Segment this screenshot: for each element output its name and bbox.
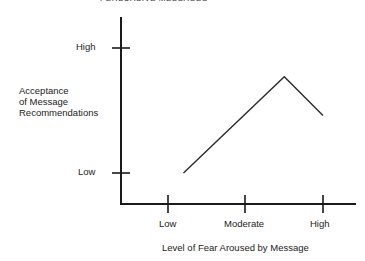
y-tick-label-low: Low (78, 166, 95, 177)
y-axis-label-line: Acceptance (19, 85, 98, 96)
y-tick-label-high: High (76, 41, 96, 52)
y-axis-label-line: Recommendations (19, 107, 98, 118)
x-tick-label-high: High (310, 218, 330, 229)
x-tick-label-low: Low (159, 218, 176, 229)
x-tick-label-moderate: Moderate (224, 218, 264, 229)
data-line (184, 77, 324, 173)
y-axis-label: Acceptance of Message Recommendations (19, 85, 98, 118)
x-axis-label: Level of Fear Aroused by Message (162, 242, 309, 253)
y-axis-label-line: of Message (19, 96, 98, 107)
